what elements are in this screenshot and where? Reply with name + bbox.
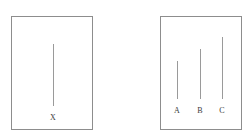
figure-root: X A B C	[0, 0, 252, 140]
segment-a	[177, 61, 178, 99]
segment-x	[53, 44, 54, 106]
segment-b	[200, 49, 201, 99]
segment-c	[222, 37, 223, 99]
segment-label-a: A	[170, 107, 184, 115]
segment-label-c: C	[215, 107, 229, 115]
segment-label-x: X	[46, 114, 60, 122]
segment-label-b: B	[193, 107, 207, 115]
three-segment-panel: A B C	[160, 16, 242, 130]
left-plot-area: X	[12, 17, 92, 129]
right-plot-area: A B C	[161, 17, 241, 129]
single-segment-panel: X	[11, 16, 93, 130]
